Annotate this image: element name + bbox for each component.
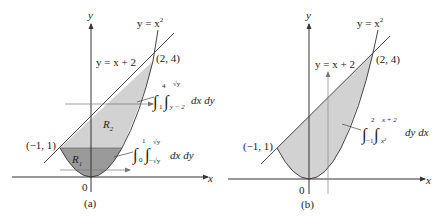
- caption-a: (a): [84, 197, 97, 210]
- panel-a: y x 0 (a) y = x2 y = x + 2 (2, 4) (−1, 1…: [12, 9, 215, 210]
- parabola-label-b: y = x2: [357, 16, 384, 29]
- line-label-b: y = x + 2: [315, 58, 355, 70]
- y-axis-label-b: y: [305, 9, 311, 21]
- point-2-4-label-b: (2, 4): [376, 53, 400, 66]
- svg-text:dx dy: dx dy: [170, 149, 194, 161]
- point-neg1-1-label: (−1, 1): [26, 139, 56, 152]
- svg-text:4: 4: [162, 82, 166, 90]
- svg-text:∫: ∫: [163, 92, 170, 112]
- svg-text:√y: √y: [153, 138, 161, 146]
- origin-label-b: 0: [299, 184, 305, 196]
- line-label: y = x + 2: [96, 56, 136, 68]
- point-2-4-label: (2, 4): [156, 52, 180, 65]
- point-neg1-1-label-b: (−1, 1): [243, 140, 273, 153]
- svg-text:√y: √y: [173, 80, 181, 88]
- parabola-label: y = x2: [137, 16, 164, 29]
- integral-upper: ∫ 4 1 ∫ √y y − 2 dx dy: [152, 80, 215, 112]
- svg-text:∫: ∫: [152, 92, 159, 112]
- x-axis-label: x: [207, 172, 213, 184]
- svg-text:dy dx: dy dx: [405, 126, 429, 138]
- svg-text:0: 0: [139, 156, 143, 164]
- y-axis-label: y: [87, 9, 93, 21]
- region-r2: [60, 61, 153, 148]
- figure: y x 0 (a) y = x2 y = x + 2 (2, 4) (−1, 1…: [0, 0, 447, 218]
- panel-b: y x 0 (b) y = x2 y = x + 2 (2, 4) (−1, 1…: [228, 9, 431, 211]
- svg-text:∫: ∫: [373, 125, 380, 145]
- caption-b: (b): [301, 198, 314, 211]
- svg-text:y − 2: y − 2: [169, 103, 185, 111]
- region-shaded: [277, 53, 373, 179]
- svg-text:x + 2: x + 2: [381, 116, 397, 124]
- svg-text:1: 1: [159, 103, 163, 111]
- svg-text:x²: x²: [380, 137, 387, 145]
- svg-text:−1: −1: [366, 137, 374, 145]
- svg-text:1: 1: [142, 137, 146, 145]
- integral-lower: ∫ 1 0 ∫ √y −√y dx dy: [132, 137, 194, 165]
- svg-text:2: 2: [371, 116, 375, 124]
- svg-text:dx dy: dx dy: [191, 94, 215, 106]
- svg-text:−√y: −√y: [149, 157, 161, 165]
- x-axis-label-b: x: [425, 174, 431, 186]
- svg-text:∫: ∫: [132, 145, 139, 165]
- origin-label: 0: [82, 181, 88, 193]
- integral-b: ∫ 2 −1 ∫ x + 2 x² dy dx: [361, 116, 429, 145]
